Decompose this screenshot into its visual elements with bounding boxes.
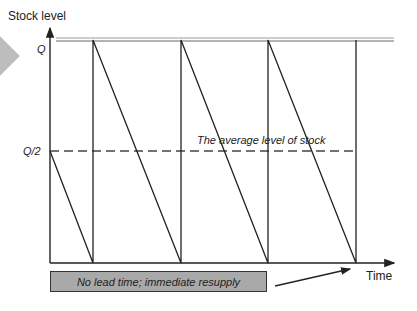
diagram-svg xyxy=(0,0,417,311)
annotation-arrow xyxy=(275,269,350,286)
q-max-line xyxy=(56,38,394,41)
average-level-label: The average level of stock xyxy=(197,134,325,146)
no-lead-time-note: No lead time; immediate resupply xyxy=(50,271,267,292)
q-half-tick-label: Q/2 xyxy=(23,145,41,157)
q-tick-label: Q xyxy=(37,43,46,55)
x-axis-label: Time xyxy=(366,269,392,283)
y-axis-label: Stock level xyxy=(8,9,66,23)
note-text: No lead time; immediate resupply xyxy=(77,276,240,288)
inventory-sawtooth-diagram: Stock level Q Q/2 The average level of s… xyxy=(0,0,417,311)
